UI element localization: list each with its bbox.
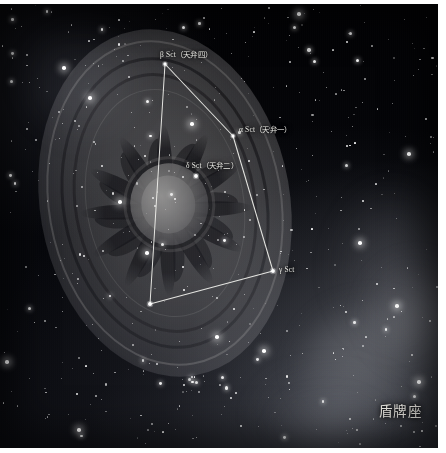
constellation-star-nodes bbox=[147, 61, 277, 307]
star-node-delta bbox=[194, 174, 198, 178]
constellation-name-label: 盾牌座 bbox=[379, 400, 422, 420]
star-node-zeta bbox=[148, 302, 152, 306]
screenshot-canvas: β Sct（天弁四） α Sct（天弁一） δ Sct（天弁二） γ Sct 盾… bbox=[0, 0, 446, 453]
constellation-lines bbox=[150, 64, 273, 304]
constellation-line-zeta-beta bbox=[150, 64, 165, 304]
star-node-gamma bbox=[271, 269, 275, 273]
constellation-line-alpha-gamma bbox=[233, 136, 273, 271]
constellation-line-gamma-zeta bbox=[150, 271, 273, 304]
star-chart-plate: β Sct（天弁四） α Sct（天弁一） δ Sct（天弁二） γ Sct 盾… bbox=[0, 4, 438, 448]
constellation-overlay bbox=[0, 4, 438, 448]
star-node-beta bbox=[163, 62, 166, 65]
star-node-alpha bbox=[231, 134, 234, 137]
constellation-line-beta-alpha bbox=[165, 64, 233, 136]
